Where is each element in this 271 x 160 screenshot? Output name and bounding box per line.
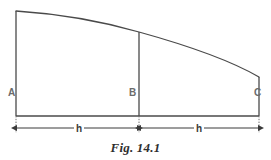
top-curve: [16, 11, 259, 77]
dimension-label-bc: h: [194, 124, 204, 134]
dimension-label-ab: h: [74, 124, 84, 134]
figure-14-1: A B C h h Fig. 14.1: [0, 0, 271, 160]
diagram-canvas: [0, 0, 271, 160]
vertex-label-b: B: [129, 88, 136, 98]
figure-caption: Fig. 14.1: [0, 140, 271, 156]
vertex-label-c: C: [254, 88, 261, 98]
vertex-label-a: A: [8, 88, 15, 98]
